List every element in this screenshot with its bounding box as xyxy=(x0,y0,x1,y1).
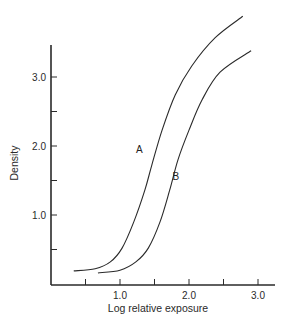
axis-ticks: 1.02.03.01.02.03.0 xyxy=(32,72,265,302)
x-axis-title: Log relative exposure xyxy=(108,302,209,314)
characteristic-curve-chart: 1.02.03.01.02.03.0 AB Log relative expos… xyxy=(0,0,287,335)
y-tick-label: 2.0 xyxy=(32,141,46,152)
labels: AB xyxy=(136,144,180,182)
curves xyxy=(74,16,251,273)
y-tick-label: 1.0 xyxy=(32,210,46,221)
curve-label-a: A xyxy=(136,144,143,155)
curve-label-b: B xyxy=(173,171,180,182)
x-tick-label: 1.0 xyxy=(113,290,127,301)
curve-a xyxy=(74,16,243,271)
y-axis-title: Density xyxy=(8,145,20,181)
axes xyxy=(51,45,275,285)
y-tick-label: 3.0 xyxy=(32,72,46,83)
curve-b xyxy=(98,51,251,273)
x-tick-label: 2.0 xyxy=(182,290,196,301)
x-tick-label: 3.0 xyxy=(251,290,265,301)
